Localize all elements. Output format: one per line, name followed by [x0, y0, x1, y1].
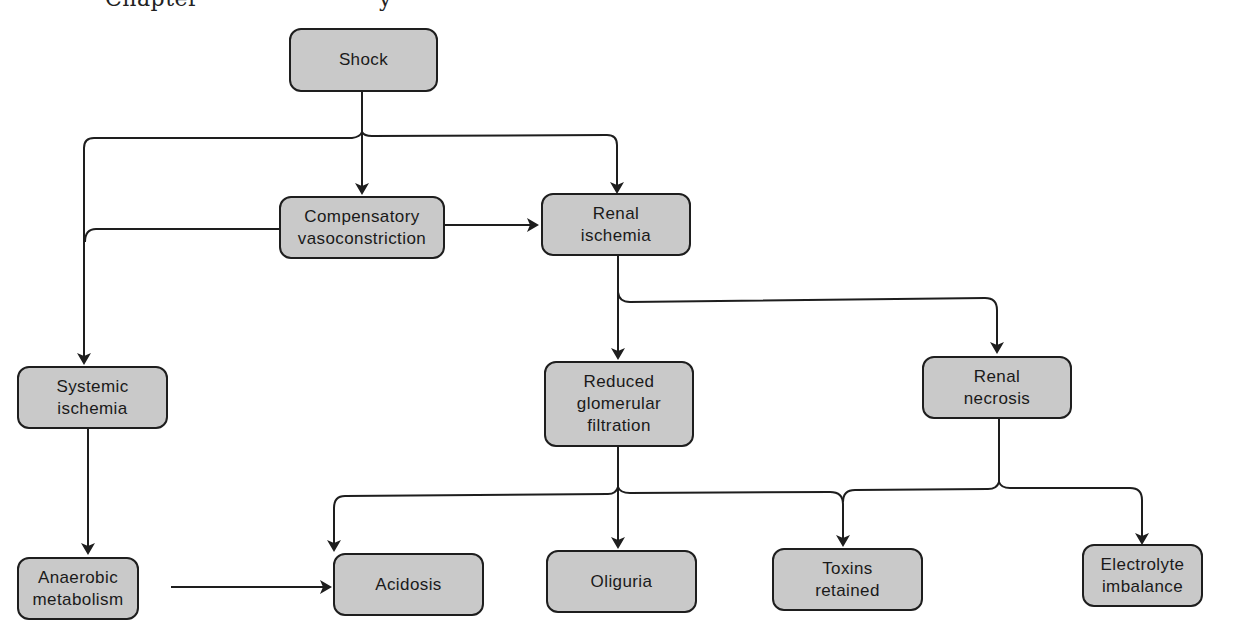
node-toxins-retained: Toxins retained — [772, 548, 923, 611]
node-anaerobic-metabolism-label: Anaerobic metabolism — [33, 567, 124, 611]
node-renal-ischemia-label: Renal ischemia — [581, 203, 651, 247]
node-acidosis: Acidosis — [333, 553, 484, 616]
edges-layer — [0, 0, 1250, 629]
node-shock-label: Shock — [339, 49, 388, 71]
node-electrolyte-imbalance-label: Electrolyte imbalance — [1101, 554, 1185, 598]
node-acidosis-label: Acidosis — [375, 574, 442, 596]
flowchart-canvas: Chaptery — [0, 0, 1250, 629]
node-compensatory-vasoconstriction-label: Compensatory vasoconstriction — [298, 206, 426, 250]
node-oliguria-label: Oliguria — [591, 571, 653, 593]
node-anaerobic-metabolism: Anaerobic metabolism — [17, 557, 139, 620]
edge-reduced-gf-to-acidosis — [334, 487, 618, 550]
node-shock: Shock — [289, 28, 438, 92]
edge-reduced-gf-to-toxins — [618, 487, 843, 545]
edge-shock-to-renal-ischemia — [362, 132, 617, 192]
node-renal-necrosis-label: Renal necrosis — [964, 366, 1031, 410]
edge-compensatory-to-systemic-ischemia — [85, 229, 279, 242]
node-oliguria: Oliguria — [546, 550, 697, 613]
edge-renal-necrosis-to-toxins — [843, 482, 999, 502]
node-compensatory-vasoconstriction: Compensatory vasoconstriction — [279, 196, 445, 259]
node-systemic-ischemia: Systemic ischemia — [17, 366, 168, 429]
node-toxins-retained-label: Toxins retained — [815, 558, 880, 602]
node-renal-necrosis: Renal necrosis — [922, 356, 1072, 419]
node-systemic-ischemia-label: Systemic ischemia — [56, 376, 128, 420]
edge-renal-ischemia-to-renal-necrosis — [618, 292, 997, 352]
node-electrolyte-imbalance: Electrolyte imbalance — [1082, 544, 1203, 607]
node-reduced-glomerular-filtration: Reduced glomerular filtration — [544, 361, 694, 447]
edge-renal-necrosis-to-electrolyte — [999, 482, 1142, 543]
node-reduced-glomerular-filtration-label: Reduced glomerular filtration — [577, 371, 661, 437]
node-renal-ischemia: Renal ischemia — [541, 193, 691, 256]
